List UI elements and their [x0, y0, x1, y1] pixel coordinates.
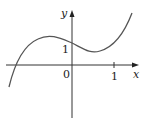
y-axis-label: y [60, 7, 68, 20]
y-axis-arrow-icon [70, 10, 75, 17]
chart: y x 0 1 1 [0, 0, 148, 122]
x-tick-label-1: 1 [111, 70, 118, 83]
y-tick-label-1: 1 [62, 43, 69, 56]
origin-label: 0 [63, 68, 70, 81]
x-axis-label: x [133, 68, 140, 81]
x-axis-arrow-icon [132, 63, 139, 68]
